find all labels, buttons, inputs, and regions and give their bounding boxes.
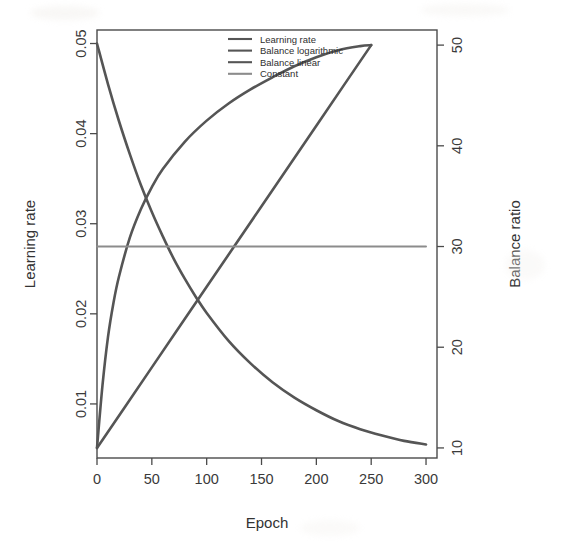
y2-axis-title: Balance ratio	[506, 200, 523, 288]
legend-label-2: Balance linear	[260, 57, 320, 68]
legend-label-1: Balance logarithmic	[260, 45, 343, 56]
chart-canvas: 050100150200250300 0.010.020.030.040.05 …	[0, 0, 575, 556]
series-line-learning-rate	[97, 44, 426, 445]
y-tick-label: 0.03	[73, 210, 89, 238]
y2-tick-label: 40	[449, 138, 465, 154]
y-tick-label: 0.01	[73, 390, 89, 418]
x-tick-label: 50	[144, 471, 160, 487]
x-axis-ticks: 050100150200250300	[93, 458, 438, 487]
y-axis-title: Learning rate	[21, 200, 38, 288]
y-tick-label: 0.05	[73, 29, 89, 57]
y2-tick-label: 30	[449, 238, 465, 254]
x-tick-label: 100	[195, 471, 219, 487]
chart-figure: 050100150200250300 0.010.020.030.040.05 …	[0, 0, 575, 556]
x-tick-label: 200	[304, 471, 328, 487]
y-tick-label: 0.04	[73, 120, 89, 148]
x-tick-label: 250	[359, 471, 383, 487]
y2-axis-ticks: 1020304050	[437, 37, 465, 456]
plot-frame	[97, 30, 437, 458]
chart-legend: Learning rateBalance logarithmicBalance …	[228, 34, 343, 80]
x-tick-label: 150	[249, 471, 273, 487]
legend-label-3: Constant	[260, 68, 298, 79]
y2-tick-label: 20	[449, 339, 465, 355]
series-group	[97, 44, 426, 448]
x-tick-label: 300	[414, 471, 438, 487]
legend-label-0: Learning rate	[260, 34, 316, 45]
y2-tick-label: 50	[449, 37, 465, 53]
x-axis-title: Epoch	[246, 514, 289, 531]
y-axis-ticks: 0.010.020.030.040.05	[73, 29, 97, 418]
y2-tick-label: 10	[449, 440, 465, 456]
y-tick-label: 0.02	[73, 300, 89, 328]
x-tick-label: 0	[93, 471, 101, 487]
